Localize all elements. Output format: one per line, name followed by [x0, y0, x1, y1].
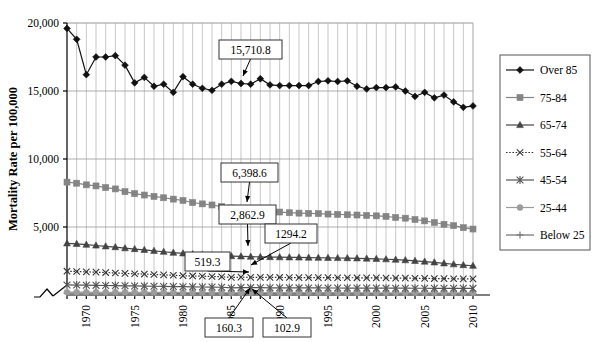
- callout-label: 6,398.6: [232, 167, 267, 180]
- data-point-square: [141, 192, 147, 198]
- data-point-diamond: [305, 82, 312, 89]
- data-point-square: [151, 193, 157, 199]
- data-point-square: [64, 179, 70, 185]
- callout-label: 2,862.9: [230, 209, 265, 222]
- callout-label: 519.3: [195, 256, 221, 268]
- data-point-diamond: [315, 78, 322, 85]
- data-point-diamond: [412, 93, 419, 100]
- data-point-square: [180, 197, 186, 203]
- data-point-square: [325, 211, 331, 217]
- callout-arrowhead: [245, 196, 250, 202]
- data-point-diamond: [373, 84, 380, 91]
- data-point-square: [93, 183, 99, 189]
- data-point-square: [460, 225, 466, 231]
- legend-label: 55-64: [540, 147, 567, 159]
- data-point-square: [74, 180, 80, 186]
- data-point-diamond: [402, 88, 409, 95]
- data-point-circle: [93, 289, 99, 295]
- data-point-circle: [83, 289, 89, 295]
- data-point-square: [306, 210, 312, 216]
- data-point-diamond: [286, 82, 293, 89]
- data-point-diamond: [267, 81, 274, 88]
- data-point-square: [364, 212, 370, 218]
- chart-root: 5,00010,00015,00020,000Mortality Rate pe…: [0, 0, 597, 342]
- legend-label: Over 85: [540, 64, 578, 76]
- data-point-square: [286, 210, 292, 216]
- data-point-circle: [122, 289, 128, 295]
- data-point-square: [373, 213, 379, 219]
- data-point-diamond: [344, 77, 351, 84]
- callout-label: 15,710.8: [230, 44, 271, 57]
- data-point-diamond: [276, 82, 283, 89]
- data-point-square: [199, 201, 205, 207]
- data-point-circle: [132, 289, 138, 295]
- data-point-circle: [517, 205, 523, 211]
- legend-label: 65-74: [540, 119, 567, 131]
- data-point-square: [335, 211, 341, 217]
- data-point-square: [412, 217, 418, 223]
- data-point-diamond: [238, 80, 245, 87]
- data-point-diamond: [334, 78, 341, 85]
- x-tick-label: 2010: [467, 305, 479, 328]
- x-tick-label: 1980: [177, 305, 189, 328]
- data-point-diamond: [325, 77, 332, 84]
- callout-label: 102.9: [274, 322, 300, 334]
- x-tick-label: 1970: [80, 305, 92, 328]
- data-point-diamond: [218, 81, 225, 88]
- data-point-diamond: [102, 54, 109, 61]
- y-axis-title: Mortality Rate per 100,000: [6, 87, 20, 231]
- data-point-diamond: [460, 104, 467, 111]
- callout-arrowhead: [243, 269, 249, 274]
- data-point-circle: [64, 289, 70, 295]
- x-tick-label: 2005: [419, 305, 431, 328]
- data-point-diamond: [131, 79, 138, 86]
- data-point-square: [83, 182, 89, 188]
- data-point-square: [103, 185, 109, 191]
- data-point-square: [296, 210, 302, 216]
- data-point-diamond: [83, 71, 90, 78]
- data-point-circle: [151, 289, 157, 295]
- data-point-square: [170, 196, 176, 202]
- x-tick-label: 2000: [370, 305, 382, 328]
- data-point-diamond: [247, 81, 254, 88]
- data-point-square: [315, 211, 321, 217]
- data-point-diamond: [93, 54, 100, 61]
- legend-label: 75-84: [540, 92, 567, 104]
- legend-label: 25-44: [540, 202, 567, 214]
- legend-label: Below 25: [540, 229, 585, 241]
- axis-break-icon: [34, 289, 53, 297]
- legend: Over 8575-8465-7455-6445-5425-44Below 25: [500, 55, 590, 250]
- data-point-square: [112, 186, 118, 192]
- callout-arrowhead: [245, 240, 250, 246]
- y-tick-label: 5,000: [33, 221, 59, 234]
- data-point-square: [383, 213, 389, 219]
- data-point-square: [431, 220, 437, 226]
- data-point-circle: [103, 289, 109, 295]
- data-point-square: [161, 195, 167, 201]
- data-point-diamond: [470, 103, 477, 110]
- y-axis-ticks: 5,00010,00015,00020,000: [27, 17, 67, 234]
- data-point-square: [354, 212, 360, 218]
- data-point-square: [402, 215, 408, 221]
- data-point-square: [517, 95, 523, 101]
- y-tick-label: 10,000: [27, 153, 59, 166]
- x-tick-label: 1975: [129, 305, 141, 328]
- x-tick-label: 1995: [322, 305, 334, 328]
- callout-label: 160.3: [216, 322, 242, 334]
- annotation-callout: 6,398.6: [221, 163, 278, 202]
- data-point-diamond: [209, 87, 216, 94]
- data-point-circle: [112, 289, 118, 295]
- annotation-callout: 102.9: [252, 289, 311, 337]
- data-point-square: [470, 226, 476, 232]
- data-point-square: [393, 214, 399, 220]
- data-point-diamond: [296, 82, 303, 89]
- y-tick-label: 20,000: [27, 17, 59, 30]
- callout-label: 1294.2: [275, 228, 307, 240]
- data-point-diamond: [421, 89, 428, 96]
- data-point-square: [451, 223, 457, 229]
- data-point-square: [132, 191, 138, 197]
- data-point-diamond: [257, 75, 264, 82]
- data-point-square: [344, 212, 350, 218]
- data-point-diamond: [354, 83, 361, 90]
- data-point-triangle: [64, 240, 71, 246]
